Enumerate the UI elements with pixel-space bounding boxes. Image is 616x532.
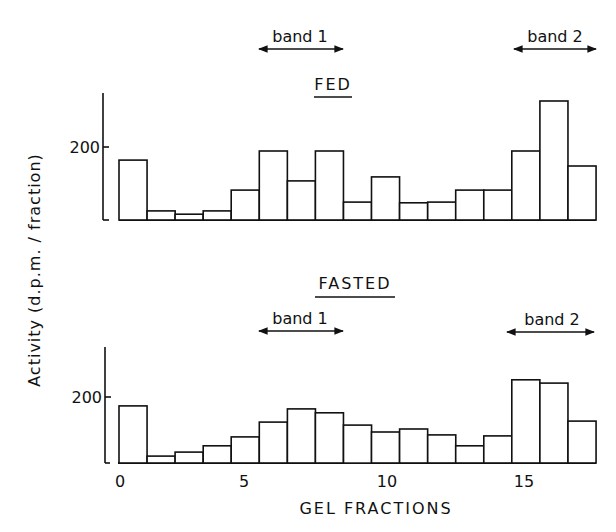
band1-label-fasted: band 1 — [272, 309, 328, 328]
x-axis-label: GEL FRACTIONS — [299, 499, 452, 518]
histogram-bar — [428, 202, 456, 220]
histogram-bar — [372, 432, 400, 463]
histogram-bar — [175, 214, 203, 220]
histogram-bar — [512, 380, 540, 463]
histogram-bar — [344, 202, 372, 220]
histogram-bar — [147, 211, 175, 220]
histogram-bar — [400, 429, 428, 463]
histogram-bar — [344, 425, 372, 463]
histogram-bar — [568, 421, 596, 463]
histogram-bar — [175, 452, 203, 463]
y-axis-label: Activity (d.p.m. / fraction) — [25, 153, 44, 387]
histogram-bar — [315, 413, 343, 463]
fed-y-tick-label-200: 200 — [69, 138, 100, 157]
histogram-bar — [231, 437, 259, 463]
fed-bars — [119, 101, 596, 220]
histogram-bar — [372, 177, 400, 220]
histogram-bar — [428, 435, 456, 463]
fed-title: FED — [314, 75, 352, 94]
histogram-bar — [119, 406, 147, 463]
histogram-bar — [484, 436, 512, 463]
histogram-bar — [540, 101, 568, 220]
histogram-bar — [512, 151, 540, 220]
histogram-bar — [400, 203, 428, 220]
histogram-bar — [540, 383, 568, 463]
x-tick-label-0: 0 — [115, 472, 125, 491]
histogram-bar — [456, 446, 484, 463]
band1-label-fed: band 1 — [272, 27, 328, 46]
histogram-bar — [484, 190, 512, 220]
histogram-bar — [203, 446, 231, 463]
histogram-figure: Activity (d.p.m. / fraction) band 1 band… — [0, 0, 616, 532]
fasted-y-tick-label-200: 200 — [71, 388, 102, 407]
histogram-bar — [259, 151, 287, 220]
histogram-bar — [456, 190, 484, 220]
histogram-bar — [231, 190, 259, 220]
x-tick-label-10: 10 — [377, 472, 397, 491]
histogram-bar — [259, 422, 287, 463]
x-tick-label-5: 5 — [239, 472, 249, 491]
fasted-bars — [119, 380, 596, 463]
x-tick-label-15: 15 — [514, 472, 534, 491]
histogram-bar — [287, 181, 315, 220]
fasted-title: FASTED — [318, 274, 391, 293]
band2-label-fed: band 2 — [527, 27, 583, 46]
fed-panel: band 1 band 2 FED 200 — [69, 27, 596, 220]
histogram-bar — [315, 151, 343, 220]
band2-label-fasted: band 2 — [524, 310, 580, 329]
histogram-bar — [203, 211, 231, 220]
fasted-panel: FASTED band 1 band 2 200 0 5 10 15 GEL F… — [71, 274, 596, 518]
histogram-bar — [287, 409, 315, 463]
histogram-bar — [568, 166, 596, 220]
histogram-bar — [147, 456, 175, 463]
histogram-bar — [119, 160, 147, 220]
